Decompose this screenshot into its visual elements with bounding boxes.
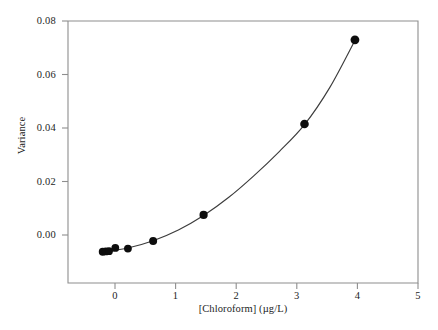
plot-frame — [68, 21, 418, 283]
y-tick-label-0.08: 0.08 — [18, 15, 56, 26]
data-point — [149, 237, 157, 245]
data-point — [351, 35, 360, 44]
x-tick-label-5: 5 — [406, 290, 430, 301]
chart-figure: 0.08 0.06 0.04 0.02 0.00 0 1 2 3 4 5 [Ch… — [0, 0, 438, 330]
y-tick-label-0.06: 0.06 — [18, 69, 56, 80]
y-tick-label-0.00: 0.00 — [18, 229, 56, 240]
data-point — [300, 120, 309, 129]
x-axis-title: [Chloroform] (µg/L) — [68, 303, 418, 314]
y-axis-title: Variance — [16, 91, 27, 181]
scatter-plot-canvas — [0, 0, 438, 330]
x-tick-label-4: 4 — [345, 290, 369, 301]
y-axis-ticks — [62, 21, 68, 235]
x-tick-label-3: 3 — [285, 290, 309, 301]
x-tick-label-2: 2 — [224, 290, 248, 301]
x-tick-label-1: 1 — [164, 290, 188, 301]
data-point — [199, 211, 207, 219]
x-tick-label-0: 0 — [103, 290, 127, 301]
data-point — [124, 245, 132, 253]
data-points — [99, 35, 360, 255]
data-point — [111, 244, 119, 252]
fitted-curve — [103, 40, 355, 251]
x-axis-ticks — [115, 283, 418, 289]
